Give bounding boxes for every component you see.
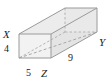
rectangular-prism-figure: X Y Z 4 5 9 [0, 0, 111, 82]
front-face [19, 34, 51, 58]
prism-drawing [0, 0, 111, 82]
far-end-face [65, 8, 97, 32]
vertex-label-y: Y [99, 37, 105, 48]
vertex-label-z: Z [41, 68, 47, 79]
dimension-label-length: 9 [68, 53, 73, 63]
vertex-label-x: X [3, 29, 10, 40]
dimension-label-height: 4 [4, 44, 9, 54]
dimension-label-width: 5 [26, 68, 31, 78]
